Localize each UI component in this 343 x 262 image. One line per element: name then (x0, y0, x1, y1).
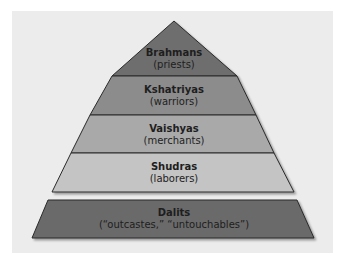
tier-name: Shudras (74, 161, 274, 173)
tier-vaishyas-label: Vaishyas (merchants) (74, 123, 274, 147)
tier-dalits-label: Dalits (“outcastes,” “untouchables”) (44, 207, 304, 231)
tier-name: Brahmans (74, 47, 274, 59)
tier-role: (“outcastes,” “untouchables”) (44, 219, 304, 231)
tier-kshatriyas-label: Kshatriyas (warriors) (74, 84, 274, 108)
tier-name: Vaishyas (74, 123, 274, 135)
tier-role: (warriors) (74, 96, 274, 108)
tier-role: (merchants) (74, 135, 274, 147)
tier-brahmans-label: Brahmans (priests) (74, 47, 274, 71)
tier-role: (laborers) (74, 173, 274, 185)
tier-name: Dalits (44, 207, 304, 219)
tier-role: (priests) (74, 59, 274, 71)
tier-name: Kshatriyas (74, 84, 274, 96)
tier-shudras-label: Shudras (laborers) (74, 161, 274, 185)
